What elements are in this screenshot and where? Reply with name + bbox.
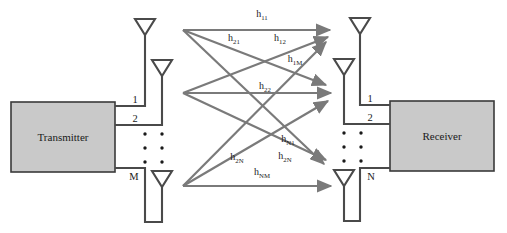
gain-label-h22: h22 <box>259 80 271 93</box>
gain-label-h2n-right: h2N <box>278 150 291 163</box>
tx-port-label-m: M <box>129 171 139 182</box>
rx-antenna-1 <box>350 18 370 71</box>
diagram-canvas: Transmitter 1 2 M <box>0 0 507 233</box>
arrow-tx1-rx2 <box>183 30 326 85</box>
rx-ellipsis-dots <box>342 131 362 162</box>
rx-port-label-n: N <box>367 171 375 182</box>
gain-label-h11: h11 <box>256 8 268 21</box>
rx-port-label-1: 1 <box>367 93 372 104</box>
tx-ellipsis-dots <box>143 132 163 163</box>
transmitter-block: Transmitter <box>11 102 115 172</box>
rx-port-label-2: 2 <box>367 112 372 123</box>
tx-antenna-1 <box>135 19 155 72</box>
gain-label-hnm: hNM <box>254 166 270 179</box>
gain-label-h2n-left: h2N <box>230 151 243 164</box>
gain-label-h21: h21 <box>228 32 240 45</box>
receiver-block: Receiver <box>390 101 494 171</box>
tx-antenna-2 <box>152 60 172 95</box>
rx-antenna-n <box>334 170 360 221</box>
mimo-channel-diagram: Transmitter 1 2 M <box>0 0 507 233</box>
arrow-tx2-rxn <box>183 93 326 160</box>
gain-label-h1m: h1M <box>288 53 302 66</box>
transmitter-label: Transmitter <box>38 131 89 143</box>
tx-port-label-2: 2 <box>132 113 137 124</box>
arrow-tx2-rx1 <box>183 37 328 93</box>
channel-arrows <box>183 30 331 186</box>
tx-port-label-1: 1 <box>132 94 137 105</box>
rx-antenna-2 <box>334 59 354 94</box>
gain-label-h12: h12 <box>274 32 286 45</box>
receiver-label: Receiver <box>422 130 461 142</box>
tx-antenna-m <box>145 171 172 222</box>
